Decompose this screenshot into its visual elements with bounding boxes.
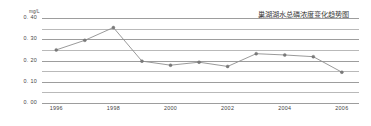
data-point xyxy=(55,48,58,51)
x-axis-tick-label: 2006 xyxy=(335,106,348,111)
data-point xyxy=(169,64,172,67)
data-point xyxy=(312,55,315,58)
x-axis-tick-label: 1996 xyxy=(50,106,63,111)
data-point xyxy=(83,39,86,42)
x-axis-tick-label: 2000 xyxy=(164,106,177,111)
series-line xyxy=(56,28,342,73)
plot-area xyxy=(42,18,359,103)
data-point xyxy=(198,61,201,64)
data-point xyxy=(226,65,229,68)
x-axis-tick-labels: 199619982000200220042006 xyxy=(42,106,359,120)
y-axis-tick-label: 0. 10 xyxy=(24,79,38,84)
series-total-phosphorus xyxy=(42,18,359,103)
gridline xyxy=(42,103,359,104)
chart-container: mg/L 巢湖湖水总磷浓度变化趋势图 0. 400. 300. 200. 100… xyxy=(0,0,371,126)
y-axis-tick-labels: 0. 400. 300. 200. 100. 00 xyxy=(0,18,40,103)
x-axis-tick-label: 1998 xyxy=(107,106,120,111)
y-axis-tick-label: 0. 30 xyxy=(24,37,38,42)
x-axis-tick-label: 2004 xyxy=(278,106,291,111)
data-point xyxy=(283,53,286,56)
data-point xyxy=(255,52,258,55)
x-axis-tick-label: 2002 xyxy=(221,106,234,111)
y-axis-tick-label: 0. 40 xyxy=(24,15,38,20)
y-axis-tick-label: 0. 00 xyxy=(24,100,38,105)
data-point xyxy=(140,60,143,63)
y-axis-tick-label: 0. 20 xyxy=(24,58,38,63)
series-markers xyxy=(55,26,344,74)
data-point xyxy=(340,71,343,74)
data-point xyxy=(112,26,115,29)
